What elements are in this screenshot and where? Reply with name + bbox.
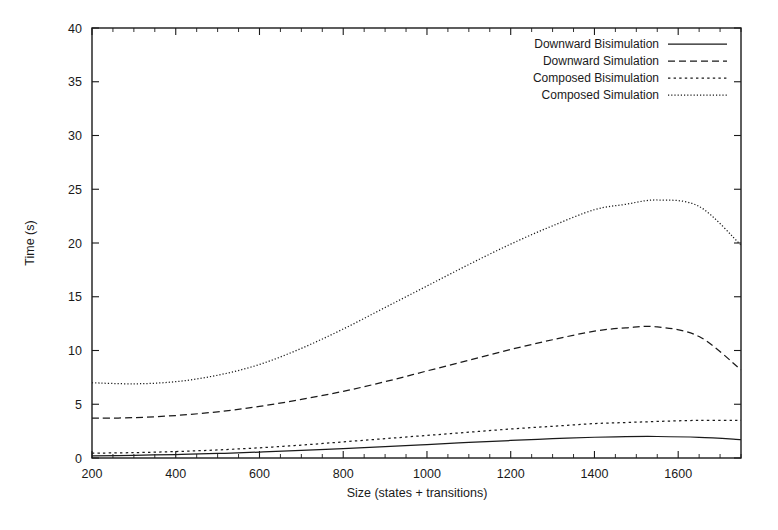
y-tick-label: 20	[68, 237, 82, 251]
x-tick-label: 800	[333, 467, 354, 481]
legend-label: Downward Simulation	[543, 54, 659, 68]
chart-background	[0, 0, 778, 530]
y-tick-label: 0	[75, 452, 82, 466]
y-tick-label: 10	[68, 344, 82, 358]
x-axis-title: Size (states + transitions)	[347, 486, 488, 500]
y-tick-label: 40	[68, 22, 82, 36]
legend-label: Composed Simulation	[542, 88, 659, 102]
x-tick-label: 600	[249, 467, 270, 481]
y-tick-label: 35	[68, 75, 82, 89]
x-tick-label: 1600	[664, 467, 692, 481]
x-tick-label: 1400	[581, 467, 609, 481]
x-tick-label: 1000	[413, 467, 441, 481]
y-axis-title: Time (s)	[23, 220, 37, 265]
time-vs-size-line-chart: 2004006008001000120014001600 05101520253…	[0, 0, 778, 530]
y-tick-label: 25	[68, 183, 82, 197]
y-tick-label: 15	[68, 290, 82, 304]
legend-label: Composed Bisimulation	[533, 71, 659, 85]
y-tick-label: 30	[68, 129, 82, 143]
x-tick-label: 400	[165, 467, 186, 481]
x-tick-label: 200	[82, 467, 103, 481]
x-tick-label: 1200	[497, 467, 525, 481]
legend-label: Downward Bisimulation	[534, 37, 659, 51]
chart-figure: 2004006008001000120014001600 05101520253…	[0, 0, 778, 530]
y-tick-label: 5	[75, 398, 82, 412]
